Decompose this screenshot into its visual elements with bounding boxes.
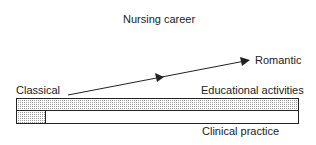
diagram-canvas: [0, 0, 316, 145]
label-romantic: Romantic: [255, 54, 301, 66]
clinical-practice-bar: [17, 111, 299, 124]
end-arrowhead-icon: [240, 57, 250, 66]
mid-arrowhead-icon: [155, 73, 164, 82]
label-educational-activities: Educational activities: [201, 84, 304, 96]
educational-activities-bar: [17, 99, 299, 111]
label-classical: Classical: [16, 84, 60, 96]
label-clinical-practice: Clinical practice: [202, 125, 279, 137]
clinical-practice-shaded-segment: [17, 111, 45, 123]
